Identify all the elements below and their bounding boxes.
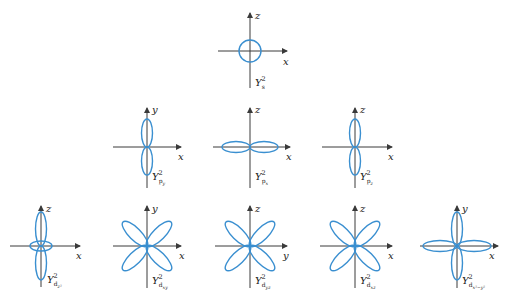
diagram-s: z x Y2s <box>218 10 289 90</box>
axis-label-h: x <box>489 250 495 261</box>
orbital-label: Y2dxy <box>152 273 168 290</box>
axis-label-h: x <box>178 151 184 162</box>
orbital-label: Y2pz <box>360 169 374 186</box>
diagram-d-x2-y2: y x Y2dx²−y² <box>420 203 498 290</box>
axis-label-v: z <box>45 203 52 214</box>
orbital-label: Y2dxz <box>360 273 376 290</box>
orbital-figure: z x Y2s y x Y2py z x Y2px z x Y2pz <box>0 0 509 303</box>
diagram-d-xy: y x Y2dxy <box>113 203 185 290</box>
orbital-label: Y2px <box>255 169 269 186</box>
diagram-d-z2: z x Y2dz² <box>10 203 82 289</box>
diagram-p-x: z x Y2px <box>213 104 292 188</box>
diagram-d-xz: z x Y2dxz <box>320 203 394 290</box>
orbital-label: Y2dx²−y² <box>462 273 485 290</box>
axis-label-v: z <box>359 104 366 115</box>
axis-label-v: y <box>151 203 158 214</box>
orbital-label: Y2dyz <box>255 273 271 290</box>
axis-label-v: z <box>254 10 261 21</box>
diagram-p-z: z x Y2pz <box>322 104 394 188</box>
axis-label-v: z <box>254 104 261 115</box>
axis-label-v: z <box>359 203 366 214</box>
diagram-d-yz: z y Y2dyz <box>215 203 289 290</box>
axis-label-v: y <box>151 104 158 115</box>
axis-label-v: y <box>461 203 468 214</box>
axis-label-h: x <box>388 250 394 261</box>
axis-label-h: x <box>286 151 292 162</box>
axis-label-v: z <box>254 203 261 214</box>
axis-label-h: y <box>282 250 289 261</box>
axis-label-h: x <box>283 56 289 67</box>
axis-label-h: x <box>76 250 82 261</box>
axis-label-h: x <box>179 250 185 261</box>
diagram-p-y: y x Y2py <box>113 104 184 188</box>
orbital-label: Y2dz² <box>47 272 62 289</box>
orbital-label: Y2s <box>255 75 266 90</box>
orbital-label: Y2py <box>152 169 166 186</box>
axis-label-h: x <box>388 151 394 162</box>
